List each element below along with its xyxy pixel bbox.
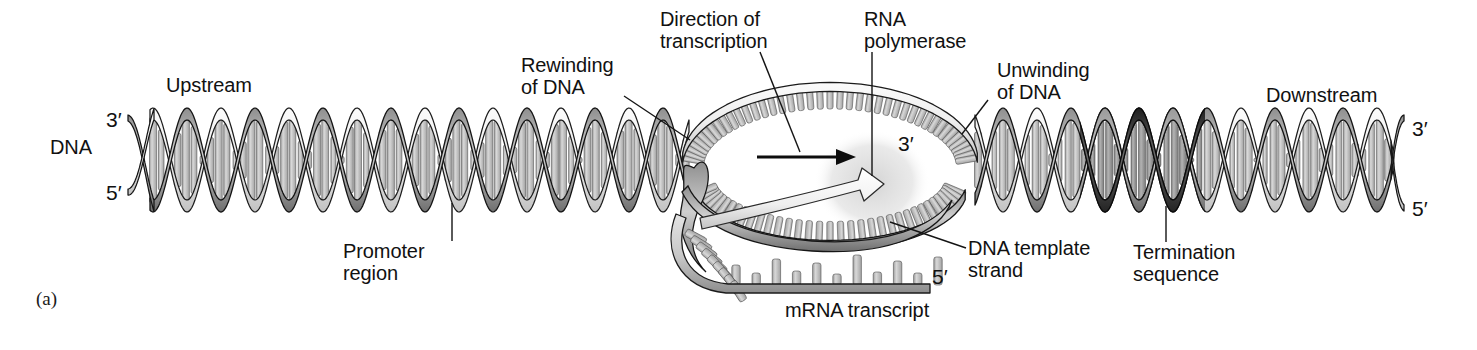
- label-mrna-transcript: mRNA transcript: [785, 299, 929, 321]
- label-upstream: Upstream: [166, 74, 252, 96]
- direction-of-transcription-arrow: [757, 149, 856, 165]
- prime-label-left-bottom: 5′: [106, 181, 122, 205]
- label-dna-template-strand: DNA templatestrand: [968, 237, 1090, 282]
- dna-helix-downstream: [975, 108, 1405, 212]
- prime-label-right-top: 3′: [1412, 117, 1428, 141]
- prime-label-right-bottom: 5′: [1412, 197, 1428, 221]
- prime-label-template-3prime: 3′: [898, 132, 914, 156]
- label-direction-of-transcription: Direction oftranscription: [660, 8, 768, 53]
- label-rna-polymerase: RNApolymerase: [864, 8, 966, 53]
- label-dna: DNA: [50, 136, 92, 158]
- label-downstream: Downstream: [1266, 84, 1377, 106]
- label-termination-sequence: Terminationsequence: [1133, 241, 1235, 286]
- prime-label-left-top: 3′: [106, 108, 122, 132]
- transcription-bubble: [680, 83, 977, 273]
- dna-helix-upstream: [128, 108, 689, 212]
- prime-label-mrna-5prime: 5′: [932, 265, 948, 289]
- label-promoter-region: Promoterregion: [343, 240, 424, 285]
- label-unwinding-of-dna: Unwindingof DNA: [997, 59, 1090, 104]
- panel-label: (a): [36, 288, 57, 310]
- transcription-diagram: DNA Upstream Promoterregion Rewindingof …: [0, 0, 1477, 350]
- label-rewinding-of-dna: Rewindingof DNA: [521, 54, 614, 99]
